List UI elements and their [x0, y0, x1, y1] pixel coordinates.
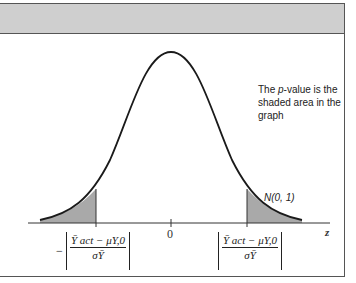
left-bound-fraction: Ȳ act − μY,0 σȲ: [70, 234, 126, 261]
bell-curve: [40, 52, 302, 220]
distribution-label: N(0, 1): [264, 191, 295, 204]
normal-curve-plot: [0, 0, 356, 283]
z-axis-label: z: [325, 226, 329, 238]
negative-sign: −: [56, 244, 63, 259]
right-bound-fraction: Ȳ act − μY,0 σȲ: [222, 234, 278, 261]
zero-tick-label: 0: [167, 227, 173, 242]
p-value-caption: The p-value is the shaded area in the gr…: [258, 83, 353, 122]
